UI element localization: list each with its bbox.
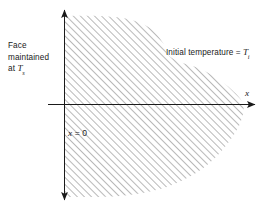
initial-temperature-label: Initial temperature = Ti <box>166 47 250 61</box>
semi-infinite-solid-figure: Face maintained at Ts Initial temperatur… <box>0 0 280 209</box>
face-label-at: at <box>8 64 17 73</box>
origin-position-label: x = 0 <box>68 128 87 140</box>
x-axis-label: x <box>245 88 249 100</box>
face-label-line-3: at Ts <box>8 63 49 77</box>
initial-temperature-subscript: i <box>248 53 250 60</box>
face-label-line-1: Face <box>8 40 49 52</box>
hatched-solid-region <box>64 16 244 197</box>
face-label-line-2: maintained <box>8 52 49 64</box>
initial-temperature-text: Initial temperature = <box>166 48 243 57</box>
face-label-temperature-subscript: s <box>22 69 25 76</box>
figure-canvas <box>0 0 280 209</box>
face-boundary-condition-label: Face maintained at Ts <box>8 40 49 77</box>
origin-label-value: = 0 <box>72 128 87 138</box>
x-axis-label-symbol: x <box>245 88 249 98</box>
